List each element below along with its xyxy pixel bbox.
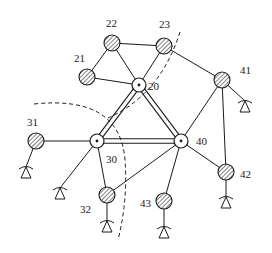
node-32: 32 bbox=[80, 187, 115, 215]
links bbox=[36, 43, 226, 201]
terminal-icon-t30 bbox=[53, 141, 97, 199]
hatched-node-icon bbox=[156, 38, 172, 54]
node-label: 41 bbox=[240, 64, 251, 76]
node-label: 42 bbox=[240, 168, 251, 180]
node-41: 41 bbox=[214, 64, 251, 88]
hatched-node-icon bbox=[79, 69, 95, 85]
trunk-20-40 bbox=[137, 84, 183, 143]
hatched-node-icon bbox=[214, 72, 230, 88]
node-43: 43 bbox=[140, 193, 172, 209]
hatched-node-icon bbox=[28, 133, 44, 149]
node-label: 22 bbox=[106, 17, 117, 29]
node-label: 40 bbox=[196, 135, 208, 147]
node-label: 30 bbox=[106, 153, 118, 165]
hub-nodes: 203040 bbox=[90, 78, 208, 165]
hub-40: 40 bbox=[174, 134, 208, 148]
node-42: 42 bbox=[218, 164, 251, 180]
node-23: 23 bbox=[156, 18, 172, 54]
node-label: 23 bbox=[159, 18, 171, 30]
node-label: 21 bbox=[74, 52, 85, 64]
terminals bbox=[19, 80, 252, 238]
node-31: 31 bbox=[27, 116, 44, 149]
link-40-41 bbox=[181, 80, 222, 141]
node-label: 43 bbox=[140, 197, 152, 209]
node-label: 32 bbox=[80, 203, 91, 215]
node-22: 22 bbox=[104, 17, 120, 51]
hatched-node-icon bbox=[156, 193, 172, 209]
boundary-30 bbox=[34, 103, 126, 240]
link-40-32 bbox=[107, 141, 181, 195]
link-41-42 bbox=[222, 80, 226, 172]
hatched-node-icon bbox=[99, 187, 115, 203]
node-label: 31 bbox=[27, 116, 38, 128]
link-23-41 bbox=[164, 46, 222, 80]
trunk-30-40 bbox=[97, 139, 181, 143]
leaf-nodes: 2122233132414243 bbox=[27, 17, 251, 215]
network-diagram: 2122233132414243 203040 bbox=[0, 0, 272, 253]
link-40-43 bbox=[164, 141, 181, 201]
node-21: 21 bbox=[74, 52, 95, 85]
hatched-node-icon bbox=[104, 35, 120, 51]
trunk-links bbox=[95, 84, 183, 144]
hatched-node-icon bbox=[218, 164, 234, 180]
node-label: 20 bbox=[148, 80, 160, 92]
